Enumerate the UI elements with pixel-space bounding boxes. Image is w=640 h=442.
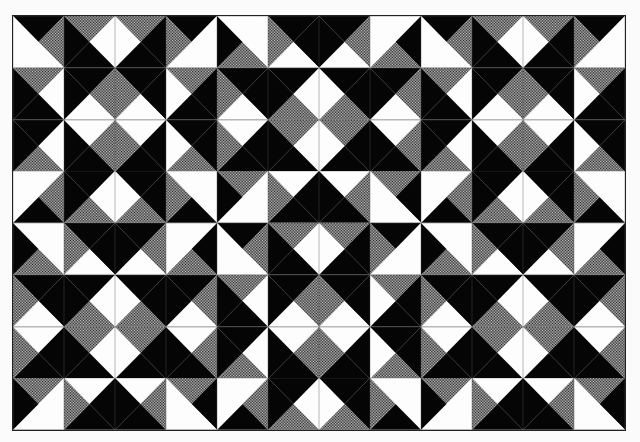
quilt-cell bbox=[472, 223, 523, 275]
quilt-cell bbox=[166, 275, 217, 327]
quilt-cell bbox=[574, 223, 625, 275]
quilt-cell bbox=[166, 120, 217, 172]
quilt-cell bbox=[217, 378, 268, 430]
quilt-cell bbox=[64, 68, 115, 120]
quilt-cell bbox=[268, 120, 319, 172]
quilt-cell bbox=[370, 171, 421, 223]
quilt-cell bbox=[319, 171, 370, 223]
quilt-cell bbox=[472, 16, 523, 68]
quilt-cell bbox=[574, 16, 625, 68]
quilt-cell bbox=[523, 275, 574, 327]
quilt-cell bbox=[64, 120, 115, 172]
quilt-cell bbox=[115, 171, 166, 223]
quilt-cell bbox=[166, 16, 217, 68]
quilt-cell bbox=[217, 16, 268, 68]
quilt-cell bbox=[523, 171, 574, 223]
quilt-cell bbox=[166, 378, 217, 430]
quilt-cell bbox=[370, 68, 421, 120]
quilt-cell bbox=[319, 68, 370, 120]
quilt-cell bbox=[370, 16, 421, 68]
quilt-cell bbox=[166, 171, 217, 223]
quilt-cell bbox=[13, 171, 64, 223]
quilt-cell bbox=[217, 171, 268, 223]
quilt-cell bbox=[64, 171, 115, 223]
quilt-cell bbox=[115, 68, 166, 120]
quilt-cell bbox=[370, 378, 421, 430]
quilt-cell bbox=[268, 223, 319, 275]
quilt-cell bbox=[13, 327, 64, 379]
quilt-cell bbox=[472, 171, 523, 223]
quilt-cell bbox=[319, 378, 370, 430]
quilt-cell bbox=[523, 378, 574, 430]
quilt-cell bbox=[472, 327, 523, 379]
quilt-cell bbox=[472, 275, 523, 327]
quilt-cell bbox=[64, 275, 115, 327]
quilt-cell bbox=[421, 120, 472, 172]
quilt-cell bbox=[523, 327, 574, 379]
quilt-cell bbox=[319, 327, 370, 379]
quilt-cell bbox=[217, 68, 268, 120]
quilt-cell bbox=[574, 378, 625, 430]
quilt-cell bbox=[523, 16, 574, 68]
quilt-cell bbox=[421, 68, 472, 120]
quilt-cell bbox=[115, 16, 166, 68]
quilt-cell bbox=[115, 120, 166, 172]
quilt-cell bbox=[217, 275, 268, 327]
quilt-cell bbox=[13, 275, 64, 327]
quilt-cell bbox=[319, 120, 370, 172]
quilt-cell bbox=[574, 120, 625, 172]
quilt-cell bbox=[574, 327, 625, 379]
quilt-grid bbox=[13, 16, 625, 430]
quilt-cell bbox=[319, 223, 370, 275]
quilt-cell bbox=[421, 327, 472, 379]
quilt-cell bbox=[370, 327, 421, 379]
quilt-cell bbox=[217, 327, 268, 379]
quilt-cell bbox=[64, 16, 115, 68]
quilt-cell bbox=[370, 223, 421, 275]
quilt-cell bbox=[217, 120, 268, 172]
quilt-cell bbox=[268, 275, 319, 327]
quilt-cell bbox=[319, 16, 370, 68]
quilt-cell bbox=[268, 171, 319, 223]
quilt-cell bbox=[421, 171, 472, 223]
quilt-cell bbox=[472, 120, 523, 172]
quilt-cell bbox=[13, 68, 64, 120]
quilt-cell bbox=[166, 327, 217, 379]
quilt-cell bbox=[64, 378, 115, 430]
quilt-cell bbox=[13, 16, 64, 68]
quilt-cell bbox=[166, 68, 217, 120]
quilt-cell bbox=[421, 275, 472, 327]
quilt-cell bbox=[421, 378, 472, 430]
quilt-cell bbox=[523, 120, 574, 172]
quilt-cell bbox=[115, 327, 166, 379]
quilt-cell bbox=[268, 16, 319, 68]
quilt-cell bbox=[370, 120, 421, 172]
quilt-cell bbox=[268, 327, 319, 379]
quilt-cell bbox=[268, 68, 319, 120]
quilt-cell bbox=[13, 223, 64, 275]
quilt-cell bbox=[115, 378, 166, 430]
quilt-cell bbox=[319, 275, 370, 327]
quilt-cell bbox=[523, 68, 574, 120]
quilt-cell bbox=[421, 223, 472, 275]
quilt-cell bbox=[472, 378, 523, 430]
quilt-cell bbox=[268, 378, 319, 430]
quilt-cell bbox=[472, 68, 523, 120]
quilt-cell bbox=[574, 68, 625, 120]
quilt-cell bbox=[13, 120, 64, 172]
quilt-cell bbox=[115, 275, 166, 327]
quilt-cell bbox=[574, 275, 625, 327]
quilt-cell bbox=[166, 223, 217, 275]
quilt-cell bbox=[421, 16, 472, 68]
quilt-cell bbox=[64, 223, 115, 275]
quilt-cell bbox=[370, 275, 421, 327]
quilt-cell bbox=[523, 223, 574, 275]
quilt-cell bbox=[217, 223, 268, 275]
quilt-cell bbox=[574, 171, 625, 223]
quilt-cell bbox=[13, 378, 64, 430]
quilt-cell bbox=[64, 327, 115, 379]
quilt-cell bbox=[115, 223, 166, 275]
